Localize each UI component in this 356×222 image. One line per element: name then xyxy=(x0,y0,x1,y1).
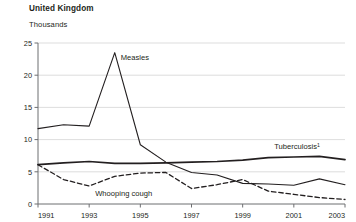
x-axis-tick-label: 1999 xyxy=(234,211,250,220)
line-chart-plot: 0510152025 1991199319951997199920012003 … xyxy=(0,0,356,222)
y-axis-tick-label: 25 xyxy=(24,39,32,48)
y-axis-tick-label: 5 xyxy=(28,168,32,177)
footnote-marker: 1 xyxy=(317,142,320,148)
chart-figure: United Kingdom Thousands 0510152025 1991… xyxy=(0,0,356,222)
data-series xyxy=(38,53,345,200)
series-line-tuberculosis xyxy=(38,156,345,164)
x-axis-tick-label: 1993 xyxy=(81,211,97,220)
x-axis-tick-label: 1997 xyxy=(183,211,199,220)
y-axis-ticks: 0510152025 xyxy=(24,39,38,209)
x-axis-ticks: 1991199319951997199920012003 xyxy=(38,204,345,220)
x-axis-tick-label: 2001 xyxy=(286,211,302,220)
y-axis-tick-label: 0 xyxy=(28,200,32,209)
x-axis-tick-label: 2003 xyxy=(329,211,345,220)
y-axis-tick-label: 10 xyxy=(24,135,32,144)
y-axis-tick-label: 15 xyxy=(24,103,32,112)
x-axis-tick-label: 1991 xyxy=(38,211,54,220)
series-label-whooping-cough: Whooping cough xyxy=(95,189,152,198)
y-axis-tick-label: 20 xyxy=(24,71,32,80)
series-label-tuberculosis: Tuberculosis1 xyxy=(274,142,320,152)
x-axis-tick-label: 1995 xyxy=(132,211,148,220)
gridlines xyxy=(38,43,345,172)
series-line-measles xyxy=(38,53,345,186)
series-line-whooping-cough xyxy=(38,165,345,200)
series-label-measles: Measles xyxy=(121,53,149,62)
